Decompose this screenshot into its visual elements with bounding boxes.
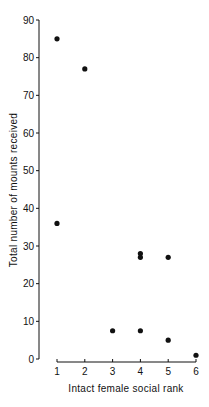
y-tick-label: 50 bbox=[23, 165, 35, 176]
x-tick-label: 2 bbox=[82, 366, 88, 377]
y-tick-label: 60 bbox=[23, 128, 35, 139]
y-tick-label: 0 bbox=[28, 354, 34, 365]
x-tick-label: 6 bbox=[193, 366, 199, 377]
data-point bbox=[193, 353, 198, 358]
y-tick-label: 90 bbox=[23, 15, 35, 26]
data-point bbox=[138, 255, 143, 260]
x-tick-label: 3 bbox=[110, 366, 116, 377]
data-point bbox=[110, 328, 115, 333]
data-point bbox=[166, 338, 171, 343]
data-point bbox=[138, 328, 143, 333]
y-axis: 0102030405060708090 bbox=[23, 15, 39, 365]
x-axis: 123456 bbox=[54, 359, 199, 377]
y-tick-label: 30 bbox=[23, 241, 35, 252]
x-axis-title: Intact female social rank bbox=[68, 383, 184, 394]
data-point bbox=[54, 36, 59, 41]
x-tick-label: 1 bbox=[54, 366, 60, 377]
data-point bbox=[54, 221, 59, 226]
y-tick-label: 70 bbox=[23, 90, 35, 101]
scatter-chart: 0102030405060708090 123456 Total number … bbox=[0, 0, 209, 407]
x-tick-label: 4 bbox=[138, 366, 144, 377]
y-axis-title: Total number of mounts received bbox=[8, 113, 19, 267]
x-tick-label: 5 bbox=[165, 366, 171, 377]
data-point bbox=[166, 255, 171, 260]
y-tick-label: 20 bbox=[23, 278, 35, 289]
y-tick-label: 80 bbox=[23, 52, 35, 63]
y-tick-label: 10 bbox=[23, 316, 35, 327]
data-points bbox=[54, 36, 198, 358]
y-tick-label: 40 bbox=[23, 203, 35, 214]
data-point bbox=[82, 66, 87, 71]
